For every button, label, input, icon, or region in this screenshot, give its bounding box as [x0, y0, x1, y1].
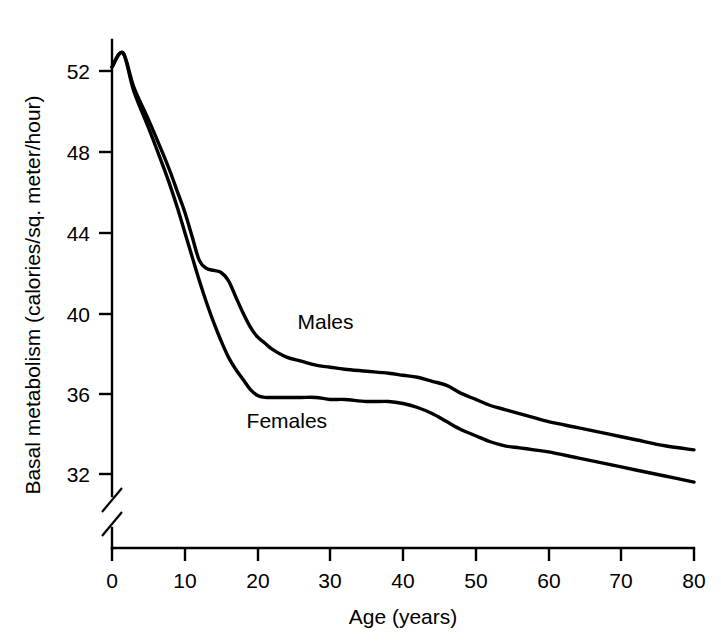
series-label-females: Females [247, 409, 328, 432]
chart-background [0, 0, 721, 642]
y-tick-label-40: 40 [67, 303, 90, 326]
x-tick-label-70: 70 [609, 569, 632, 592]
y-tick-label-48: 48 [67, 141, 90, 164]
x-tick-label-10: 10 [173, 569, 196, 592]
basal-metabolism-line-chart: 52 48 44 40 36 32 0 10 20 30 40 50 60 70 [0, 0, 721, 642]
y-tick-label-52: 52 [67, 60, 90, 83]
series-label-males: Males [298, 310, 354, 333]
chart-figure: 52 48 44 40 36 32 0 10 20 30 40 50 60 70 [0, 0, 721, 642]
y-tick-label-32: 32 [67, 463, 90, 486]
x-tick-label-20: 20 [246, 569, 269, 592]
y-tick-label-44: 44 [67, 222, 91, 245]
y-tick-label-36: 36 [67, 383, 90, 406]
x-tick-label-50: 50 [464, 569, 487, 592]
x-tick-label-30: 30 [318, 569, 341, 592]
x-tick-label-40: 40 [391, 569, 414, 592]
x-axis-title: Age (years) [349, 605, 458, 628]
x-tick-label-60: 60 [537, 569, 560, 592]
x-tick-label-80: 80 [682, 569, 705, 592]
x-tick-label-0: 0 [106, 569, 118, 592]
y-axis-title: Basal metabolism (calories/sq. meter/hou… [21, 95, 44, 494]
